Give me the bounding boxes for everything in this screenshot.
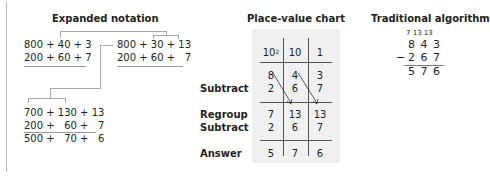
- row-label-regroup: Regroup: [200, 109, 248, 120]
- cell-answer-tens: 7: [284, 148, 306, 160]
- row-label-subtract-2: Subtract: [200, 122, 249, 133]
- cell-answer-ones: 6: [309, 148, 331, 160]
- cell-subtract2-ones: 7: [309, 122, 331, 134]
- cell-subtract2-hundreds: 2: [260, 122, 282, 134]
- traditional-algorithm-title: Traditional algorithm: [371, 13, 490, 24]
- cell-subtract2-tens: 6: [284, 122, 306, 134]
- difference: 5 7 6: [408, 65, 441, 78]
- cell-regroup-tens: 13: [284, 109, 306, 121]
- regroup-marks: 7 13 13: [406, 29, 433, 37]
- cell-answer-hundreds: 5: [260, 148, 282, 160]
- cell-regroup-hundreds: 7: [260, 109, 282, 121]
- row-label-answer: Answer: [200, 148, 242, 159]
- minuend: 8 4 3: [408, 38, 441, 51]
- subtrahend: 2 6 7: [408, 51, 441, 64]
- minus-sign: −: [396, 51, 406, 64]
- cell-regroup-ones: 13: [309, 109, 331, 121]
